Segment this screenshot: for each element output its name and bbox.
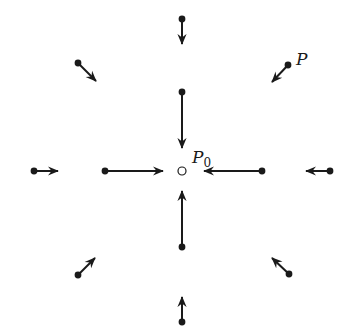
arrow-origin-dot — [179, 89, 186, 96]
arrow-outer-top — [179, 16, 186, 44]
arrow-outer-left — [31, 168, 58, 175]
arrow-shaft — [272, 258, 289, 274]
arrow-outer-bottom — [179, 297, 186, 325]
arrow-inner-top — [179, 89, 186, 148]
center-point-label: P0 — [191, 147, 211, 170]
arrow-inner-right — [204, 168, 265, 175]
arrow-origin-dot — [75, 272, 82, 279]
arrow-origin-dot — [179, 244, 186, 251]
arrow-origin-dot — [327, 168, 334, 175]
arrow-shaft — [78, 63, 96, 81]
point-p-label: P — [295, 49, 308, 69]
arrow-origin-dot — [259, 168, 266, 175]
arrow-outer-bottom-left — [75, 258, 95, 278]
arrow-origin-dot — [102, 168, 109, 175]
arrow-outer-bottom-right — [272, 258, 292, 277]
arrow-outer-top-left — [75, 60, 96, 81]
arrow-origin-dot — [286, 271, 293, 278]
arrow-shaft — [272, 65, 288, 82]
arrow-outer-right — [306, 168, 333, 175]
arrow-inner-bottom — [179, 191, 186, 250]
center-label-subscript: 0 — [203, 156, 211, 170]
arrow-outer-top-right — [272, 62, 291, 82]
center-label-main: P — [191, 147, 204, 167]
arrow-shaft — [78, 258, 95, 275]
arrow-inner-left — [102, 168, 163, 175]
vector-field-diagram: P0 P — [0, 0, 354, 336]
arrow-origin-dot — [75, 60, 82, 67]
arrow-origin-dot — [179, 319, 186, 326]
arrow-origin-dot — [31, 168, 38, 175]
arrow-origin-dot — [179, 16, 186, 23]
arrow-origin-dot — [285, 62, 292, 69]
center-point-marker — [178, 167, 186, 175]
